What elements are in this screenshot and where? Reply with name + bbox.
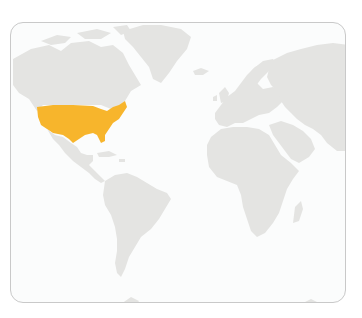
- region-south-america[interactable]: [103, 173, 171, 277]
- region-iceland: [193, 68, 209, 75]
- region-north-america[interactable]: [13, 41, 141, 111]
- region-uk: [213, 87, 229, 103]
- region-antarctica: [121, 297, 319, 303]
- region-madagascar: [293, 201, 303, 223]
- map-frame: United States: [10, 22, 346, 303]
- region-caribbean: [97, 151, 125, 162]
- map-canvas: United States: [0, 0, 362, 318]
- region-united-states[interactable]: [37, 101, 127, 143]
- world-map: [10, 22, 346, 303]
